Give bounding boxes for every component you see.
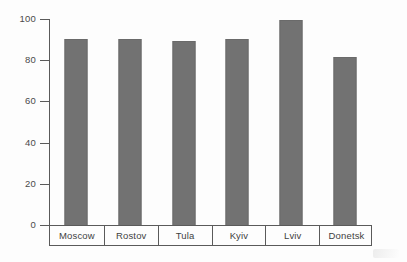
y-axis-tick-label-text: 80 — [10, 55, 36, 65]
bar-slot — [49, 19, 103, 226]
y-axis-tick-label-text: 100 — [10, 14, 36, 24]
bar-slot — [157, 19, 211, 226]
bar — [118, 39, 141, 226]
y-axis-tick-label-text: 40 — [10, 138, 36, 148]
y-axis-tick-label: 100 — [8, 14, 36, 24]
y-axis-tick-label-text: 60 — [10, 96, 36, 106]
y-axis-tick — [40, 225, 49, 226]
y-axis-tick-label-text: 0 — [10, 220, 36, 230]
y-axis-tick-label: 20 — [8, 179, 36, 189]
bar — [334, 57, 357, 226]
category-label-cell: Moscow — [50, 226, 104, 245]
category-label-text: Kyiv — [230, 231, 249, 241]
y-axis-tick — [40, 101, 49, 102]
category-label-cell: Tula — [158, 226, 212, 245]
bar-chart: 020406080100 MoscowRostovTulaKyivLvivDon… — [0, 0, 407, 262]
y-axis-tick — [40, 143, 49, 144]
category-label-text: Lviv — [284, 231, 302, 241]
y-axis-tick-label-text: 20 — [10, 179, 36, 189]
y-axis-tick — [40, 184, 49, 185]
category-label-cell: Rostov — [104, 226, 158, 245]
category-label-text: Donetsk — [329, 231, 365, 241]
bar — [172, 41, 195, 226]
bar-slot — [211, 19, 265, 226]
bar — [64, 39, 87, 226]
y-axis-tick-label: 60 — [8, 96, 36, 106]
category-label-band: MoscowRostovTulaKyivLvivDonetsk — [49, 226, 372, 246]
y-axis-tick-label: 0 — [8, 220, 36, 230]
category-label-text: Tula — [176, 231, 195, 241]
bar — [280, 20, 303, 226]
scan-smudge — [373, 249, 399, 258]
bar-slot — [264, 19, 318, 226]
category-label-text: Moscow — [59, 231, 95, 241]
category-label-cell: Donetsk — [319, 226, 373, 245]
y-axis-tick — [40, 60, 49, 61]
category-label-cell: Lviv — [265, 226, 319, 245]
category-label-text: Rostov — [116, 231, 146, 241]
bar-slot — [103, 19, 157, 226]
y-axis-tick-label: 80 — [8, 55, 36, 65]
plot-area — [49, 19, 372, 226]
y-axis-tick — [40, 19, 49, 20]
bar-slot — [318, 19, 372, 226]
bar — [226, 39, 249, 226]
category-label-cell: Kyiv — [212, 226, 266, 245]
y-axis-tick-label: 40 — [8, 138, 36, 148]
